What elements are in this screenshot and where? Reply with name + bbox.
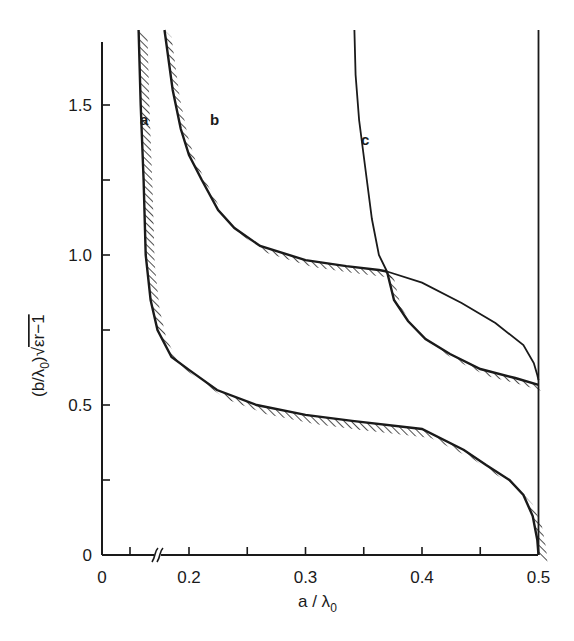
x-tick-label: 0.3 <box>294 568 318 587</box>
hatch-band-1 <box>165 30 395 279</box>
x-axis-title: a / λ0 <box>298 592 337 615</box>
y-tick-label: 1.0 <box>68 246 92 265</box>
y-tick-label: 0.5 <box>68 396 92 415</box>
curve-b <box>165 30 388 272</box>
axes <box>102 42 538 562</box>
svg-text:a / λ0: a / λ0 <box>298 592 337 615</box>
curve-label-c: c <box>361 131 369 148</box>
hatch-band-4 <box>387 272 546 392</box>
curve-c-continued-hatched-boundary- <box>387 272 539 385</box>
hatch-bands <box>139 30 548 564</box>
curves <box>139 30 539 555</box>
y-tick-label: 0 <box>83 546 92 565</box>
x-tick-label: 0.5 <box>527 568 551 587</box>
curve-c <box>354 30 387 272</box>
x-tick-label: 0.4 <box>410 568 434 587</box>
curve-label-a: a <box>140 111 149 128</box>
ticks: 00.20.30.40.500.51.01.5 <box>68 96 550 587</box>
chart: 00.20.30.40.500.51.01.5 a b c a / λ0 (b/… <box>0 0 574 641</box>
x-tick-label: 0 <box>97 568 106 587</box>
curve-a <box>139 30 539 555</box>
y-axis-title: (b/λ0)√εr−1 <box>29 314 52 397</box>
svg-text:(b/λ0)√εr−1: (b/λ0)√εr−1 <box>29 314 52 397</box>
hatch-band-0 <box>139 30 548 564</box>
y-tick-label: 1.5 <box>68 96 92 115</box>
curve-label-b: b <box>210 111 219 128</box>
x-tick-label: 0.2 <box>177 568 201 587</box>
